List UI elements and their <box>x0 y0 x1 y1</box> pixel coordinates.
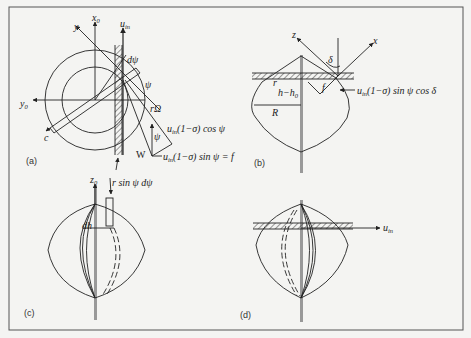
svg-text:ψ: ψ <box>154 131 161 142</box>
svg-text:z: z <box>291 29 296 40</box>
svg-text:f: f <box>322 82 326 93</box>
streamtube-hatch-b <box>252 73 354 79</box>
svg-text:dψ: dψ <box>127 54 139 65</box>
streamtube-hatch <box>115 45 122 155</box>
wind-turbine-diagram: x0 uin y y0 dψ ψ rΩ c W ψ uin(1−σ) cos ψ… <box>0 0 471 338</box>
panel-d <box>253 200 380 322</box>
panel-d-labels: uin (d) <box>240 222 393 320</box>
svg-text:uin(1−σ) sin ψ cos δ: uin(1−σ) sin ψ cos δ <box>357 85 437 97</box>
svg-text:(a): (a) <box>26 156 37 166</box>
svg-text:y0: y0 <box>19 98 28 110</box>
panel-c-labels: z0 r sin ψ dψ dh (c) <box>24 174 153 318</box>
svg-text:y: y <box>73 21 79 32</box>
panel-a <box>33 22 172 170</box>
svg-text:z0: z0 <box>89 174 98 186</box>
panel-a-labels: x0 uin y y0 dψ ψ rΩ c W ψ uin(1−σ) cos ψ… <box>19 12 235 166</box>
hub-shaft-d <box>300 200 303 322</box>
svg-text:rΩ: rΩ <box>150 103 161 114</box>
panel-b <box>252 38 373 173</box>
svg-text:δ: δ <box>328 54 333 65</box>
svg-text:r sin ψ dψ: r sin ψ dψ <box>112 177 153 188</box>
svg-text:(d): (d) <box>240 310 251 320</box>
svg-text:uin(1−σ) cos ψ: uin(1−σ) cos ψ <box>167 123 226 135</box>
svg-text:uin: uin <box>383 222 393 234</box>
svg-text:ψ: ψ <box>145 79 152 90</box>
svg-text:x: x <box>372 35 378 46</box>
svg-text:r: r <box>273 77 277 88</box>
svg-text:(b): (b) <box>254 158 265 168</box>
svg-text:h−h0: h−h0 <box>278 87 299 99</box>
svg-text:(c): (c) <box>24 308 35 318</box>
figure-border <box>9 7 463 330</box>
svg-text:R: R <box>271 107 278 118</box>
svg-text:dh: dh <box>82 220 92 231</box>
x-axis <box>338 43 373 76</box>
svg-text:W: W <box>136 149 146 160</box>
relative-velocity-W <box>123 80 152 156</box>
svg-text:x0: x0 <box>91 12 100 24</box>
panel-c <box>48 178 145 320</box>
panel-b-labels: z x δ r f h−h0 R uin(1−σ) sin ψ cos δ (b… <box>254 29 437 168</box>
svg-text:uin(1−σ) sin ψ = f: uin(1−σ) sin ψ = f <box>163 151 235 163</box>
svg-text:c: c <box>44 132 49 143</box>
svg-text:uin: uin <box>120 18 130 30</box>
